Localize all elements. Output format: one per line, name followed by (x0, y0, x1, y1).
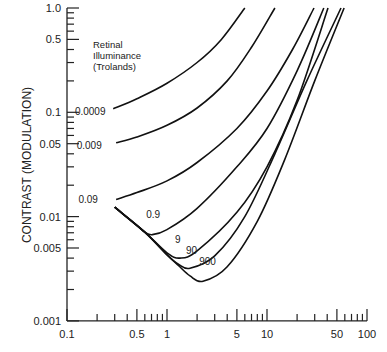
curve-label: 0.9 (146, 209, 160, 220)
legend-title: RetinalIlluminance(Trolands) (93, 39, 141, 72)
x-tick-label: 5 (234, 328, 240, 340)
y-tick-label: 0.5 (46, 33, 61, 45)
x-tick-label: 1 (164, 328, 170, 340)
axes: 0.0010.0050.010.050.10.51.00.10.51510501… (33, 2, 376, 340)
x-tick-label: 50 (331, 328, 343, 340)
curve-label: 0.0009 (75, 106, 106, 117)
y-tick-label: 0.01 (40, 211, 61, 223)
y-tick-label: 0.1 (46, 106, 61, 118)
x-tick-label: 100 (358, 328, 376, 340)
curve-0_009 (116, 8, 275, 143)
x-tick-label: 0.5 (129, 328, 144, 340)
curve-label: 9 (175, 234, 181, 245)
curve-label: 90 (186, 245, 198, 256)
y-tick-label: 0.05 (40, 138, 61, 150)
x-tick-label: 10 (261, 328, 273, 340)
curve-0_09 (116, 8, 314, 200)
x-tick-label: 0.1 (59, 328, 74, 340)
y-tick-label: 0.005 (33, 242, 61, 254)
legend-title-line: (Trolands) (93, 61, 136, 72)
contrast-sensitivity-chart: 0.0010.0050.010.050.10.51.00.10.51510501… (0, 0, 387, 352)
curves (113, 8, 344, 282)
curve-label: 0.009 (77, 140, 102, 151)
legend-title-line: Illuminance (93, 50, 141, 61)
curve-label: 900 (199, 256, 216, 267)
y-tick-label: 0.001 (33, 315, 61, 327)
curve-label: 0.09 (78, 194, 98, 205)
legend-title-line: Retinal (93, 39, 123, 50)
y-tick-label: 1.0 (46, 2, 61, 14)
curve-labels: 0.00090.0090.090.9990900 (75, 106, 216, 268)
y-axis-label: CONTRAST (MODULATION) (20, 87, 34, 243)
